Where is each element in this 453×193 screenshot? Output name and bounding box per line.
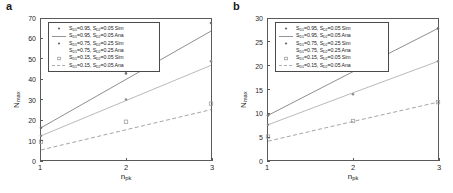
y-axis-title-sub-a: max	[15, 91, 21, 102]
y-axis-title-b: Nmax	[239, 91, 250, 108]
legend-key-icon	[51, 47, 67, 54]
figure-two-panel-line-charts: a 010203040506070 123 npk Nmax SD1=0.95,…	[0, 0, 453, 193]
y-tick-mark	[267, 18, 270, 19]
legend-label: SD1=0.15, SD2=0.05 Ana	[296, 62, 351, 70]
data-marker	[210, 22, 213, 25]
y-tick-mark	[267, 89, 270, 90]
data-marker	[40, 135, 43, 138]
y-tick-label: 0	[235, 158, 263, 165]
legend-key-icon	[278, 25, 294, 32]
y-axis-title-main-b: N	[239, 102, 248, 108]
legend-key-icon	[51, 62, 67, 69]
y-tick-mark	[40, 120, 43, 121]
x-tick-label: 1	[38, 164, 42, 172]
legend-label: SD1=0.15, SD2=0.05 Ana	[69, 62, 124, 70]
y-axis-title-a: Nmax	[12, 91, 23, 108]
legend-key-icon	[278, 62, 294, 69]
data-marker	[210, 60, 213, 63]
data-marker	[352, 93, 355, 96]
y-tick-label: 40	[8, 76, 36, 83]
data-line	[268, 102, 438, 141]
x-tick-label: 2	[351, 164, 355, 172]
y-tick-mark	[267, 137, 270, 138]
x-axis-title-a: npk	[121, 172, 132, 183]
x-tick-label: 1	[265, 164, 269, 172]
data-line	[41, 110, 211, 150]
legend-a: SD1=0.95, SD2=0.05 SimSD1=0.95, SD2=0.05…	[48, 22, 160, 72]
legend-key-icon	[278, 40, 294, 47]
y-tick-mark	[267, 41, 270, 42]
x-tick-mark	[439, 158, 440, 161]
legend-key-icon	[278, 47, 294, 54]
legend-key-icon	[51, 25, 67, 32]
y-tick-label: 50	[8, 55, 36, 62]
y-axis-title-sub-b: max	[242, 91, 248, 102]
legend-key-icon	[51, 40, 67, 47]
y-tick-label: 20	[235, 62, 263, 69]
legend-b: SD1=0.95, SD2=0.05 SimSD1=0.95, SD2=0.05…	[275, 22, 389, 72]
y-tick-label: 60	[8, 35, 36, 42]
y-tick-label: 70	[8, 15, 36, 22]
data-marker	[125, 98, 128, 101]
y-tick-label: 25	[235, 38, 263, 45]
y-tick-mark	[40, 79, 43, 80]
panel-b: b 051015202530 123 npk Nmax SD1=0.95, SD…	[227, 0, 453, 193]
x-axis-title-sub-b: pk	[352, 175, 358, 181]
legend-key-icon	[278, 55, 294, 62]
y-tick-label: 20	[8, 117, 36, 124]
x-axis-title-sub-a: pk	[125, 175, 131, 181]
data-marker	[40, 126, 43, 129]
y-tick-label: 10	[235, 110, 263, 117]
x-tick-mark	[267, 158, 268, 161]
panel-b-label: b	[233, 1, 240, 12]
x-tick-mark	[40, 158, 41, 161]
data-marker	[267, 114, 270, 117]
x-tick-mark	[212, 158, 213, 161]
y-tick-label: 0	[8, 158, 36, 165]
legend-row: SD1=0.15, SD2=0.05 Ana	[278, 62, 385, 69]
x-tick-label: 3	[437, 164, 441, 172]
data-marker	[437, 27, 440, 30]
y-tick-label: 5	[235, 134, 263, 141]
y-tick-label: 10	[8, 137, 36, 144]
y-tick-mark	[40, 18, 43, 19]
y-tick-label: 30	[235, 15, 263, 22]
data-marker	[209, 102, 212, 105]
legend-key-icon	[51, 55, 67, 62]
legend-key-icon	[278, 33, 294, 40]
data-marker	[125, 72, 128, 75]
legend-key-icon	[51, 33, 67, 40]
y-tick-mark	[40, 38, 43, 39]
x-tick-mark	[353, 158, 354, 161]
x-tick-mark	[126, 158, 127, 161]
data-marker	[437, 60, 440, 63]
x-tick-label: 2	[124, 164, 128, 172]
y-tick-mark	[40, 140, 43, 141]
data-marker	[267, 123, 270, 126]
y-axis-title-main-a: N	[12, 102, 21, 108]
data-marker	[124, 120, 127, 123]
x-tick-label: 3	[210, 164, 214, 172]
panel-a: a 010203040506070 123 npk Nmax SD1=0.95,…	[0, 0, 226, 193]
y-tick-mark	[40, 58, 43, 59]
y-tick-mark	[40, 99, 43, 100]
y-tick-mark	[267, 65, 270, 66]
panel-a-label: a	[6, 1, 12, 12]
x-axis-title-b: npk	[348, 172, 359, 183]
legend-row: SD1=0.15, SD2=0.05 Ana	[51, 62, 156, 69]
y-tick-mark	[267, 113, 270, 114]
